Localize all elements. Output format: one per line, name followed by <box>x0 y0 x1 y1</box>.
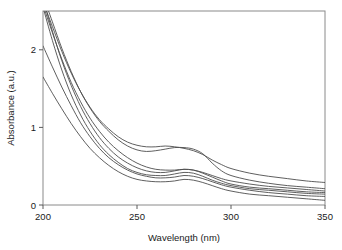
y-axis-ticks <box>39 50 43 205</box>
plot-canvas: 200250300350 012 Wavelength (nm) Absorba… <box>0 0 342 250</box>
spectrum-line <box>43 2 325 183</box>
y-axis-title: Absorbance (a.u.) <box>5 70 16 146</box>
x-tick-label: 250 <box>129 211 145 222</box>
spectra-curves <box>43 0 325 200</box>
spectrum-line <box>43 77 325 200</box>
x-axis-ticks <box>43 205 325 209</box>
x-tick-label: 300 <box>223 211 239 222</box>
x-tick-label: 350 <box>317 211 333 222</box>
uv-vis-absorbance-figure: 200250300350 012 Wavelength (nm) Absorba… <box>0 0 342 250</box>
spectrum-line <box>43 0 325 193</box>
x-tick-label: 200 <box>35 211 51 222</box>
x-axis-title: Wavelength (nm) <box>148 232 220 243</box>
y-tick-label: 2 <box>31 44 36 55</box>
spectrum-line <box>43 0 325 189</box>
x-axis-tick-labels: 200250300350 <box>35 211 333 222</box>
y-tick-label: 0 <box>31 200 36 211</box>
spectrum-line <box>43 5 325 191</box>
y-tick-label: 1 <box>31 122 36 133</box>
spectrum-line <box>43 46 325 197</box>
y-axis-tick-labels: 012 <box>31 44 36 210</box>
